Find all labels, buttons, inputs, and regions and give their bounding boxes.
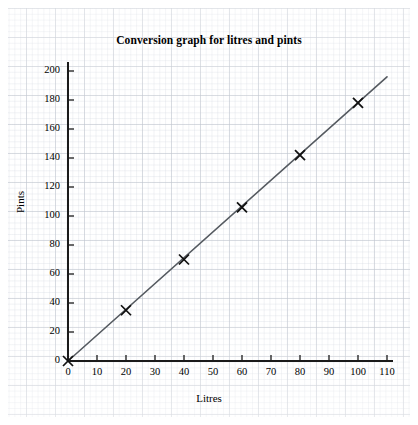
data-point-marker — [237, 202, 247, 212]
x-tick-label: 60 — [227, 366, 257, 377]
chart-page: Conversion graph for litres and pints 01… — [0, 0, 418, 425]
x-tick-label: 110 — [372, 366, 402, 377]
x-tick-label: 100 — [343, 366, 373, 377]
y-tick-label: 40 — [26, 296, 60, 307]
data-point-marker — [179, 255, 189, 265]
y-tick-label: 180 — [26, 93, 60, 104]
x-tick-label: 0 — [53, 366, 83, 377]
y-tick-label: 120 — [26, 180, 60, 191]
y-tick-label: 160 — [26, 122, 60, 133]
x-tick-label: 90 — [314, 366, 344, 377]
trend-line — [68, 77, 387, 361]
x-tick-label: 30 — [140, 366, 170, 377]
y-tick-label: 80 — [26, 238, 60, 249]
y-tick-label: 140 — [26, 151, 60, 162]
x-tick-label: 70 — [256, 366, 286, 377]
data-point-marker — [353, 98, 363, 108]
y-tick-label: 60 — [26, 267, 60, 278]
y-tick-label: 200 — [26, 64, 60, 75]
y-tick-label: 0 — [26, 354, 60, 365]
x-tick-label: 50 — [198, 366, 228, 377]
data-point-marker — [121, 305, 131, 315]
y-tick-label: 20 — [26, 325, 60, 336]
x-tick-label: 10 — [82, 366, 112, 377]
data-point-marker — [295, 150, 305, 160]
y-axis-label: Pints — [14, 172, 26, 232]
chart-plot-area — [0, 0, 418, 425]
x-axis-label: Litres — [0, 392, 418, 404]
y-tick-label: 100 — [26, 209, 60, 220]
x-tick-label: 40 — [169, 366, 199, 377]
x-tick-label: 20 — [111, 366, 141, 377]
x-tick-label: 80 — [285, 366, 315, 377]
